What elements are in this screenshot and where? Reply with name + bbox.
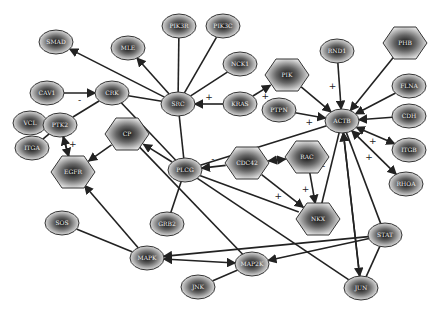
node-label: CAV1 bbox=[39, 89, 56, 96]
node-stat[interactable]: STAT bbox=[368, 223, 402, 247]
node-label: PTK2 bbox=[52, 121, 69, 128]
node-pik3r[interactable]: PIK3R bbox=[162, 14, 196, 38]
edge-cp-egfr bbox=[88, 145, 111, 161]
edge-sign-label: + bbox=[306, 117, 314, 127]
edge-sign-label: + bbox=[365, 152, 373, 162]
edge-cdh-actb bbox=[359, 117, 393, 120]
edge-ptk2-crk bbox=[73, 101, 100, 118]
edge-sign-label: - bbox=[78, 95, 81, 105]
node-plcg[interactable]: PLCG bbox=[168, 158, 202, 182]
edge-src-mle bbox=[137, 58, 169, 94]
node-map2k[interactable]: MAP2K bbox=[235, 252, 269, 276]
node-label: SRC bbox=[171, 100, 185, 107]
node-label: RAC bbox=[300, 153, 314, 160]
edge-rac-nkx bbox=[310, 173, 315, 204]
edge-src-plcg bbox=[179, 116, 184, 159]
node-itga[interactable]: ITGA bbox=[15, 136, 49, 160]
edge-pik-actb bbox=[301, 87, 331, 112]
node-label: CDC42 bbox=[236, 159, 258, 166]
node-label: SMAD bbox=[46, 38, 66, 45]
node-label: MLE bbox=[121, 44, 136, 51]
node-label: FLNA bbox=[400, 82, 418, 89]
node-grb2[interactable]: GRB2 bbox=[150, 212, 184, 236]
node-label: STAT bbox=[377, 231, 393, 238]
edge-mapk-map2k bbox=[164, 259, 236, 263]
node-label: SOS bbox=[55, 219, 68, 226]
edge-src-crk bbox=[128, 96, 162, 102]
node-actb[interactable]: ACTB bbox=[325, 109, 359, 133]
edge-itga-ptk2 bbox=[43, 134, 49, 139]
edge-stat-mapk bbox=[164, 237, 369, 257]
node-label: PIK3R bbox=[169, 22, 189, 29]
node-rhoa[interactable]: RHOA bbox=[389, 172, 423, 196]
edge-mapk-egfr bbox=[84, 185, 138, 248]
node-cav1[interactable]: CAV1 bbox=[30, 81, 64, 105]
node-label: EGFR bbox=[64, 168, 82, 175]
node-phb[interactable]: PHB bbox=[383, 27, 427, 59]
edge-sign-label: + bbox=[369, 136, 377, 146]
edge-jnk-map2k bbox=[212, 270, 237, 281]
node-mle[interactable]: MLE bbox=[111, 36, 145, 60]
node-label: ITGA bbox=[24, 144, 40, 151]
node-pik[interactable]: PIK bbox=[265, 59, 309, 91]
node-vcl[interactable]: VCL bbox=[13, 111, 47, 135]
edge-sign-label: + bbox=[261, 91, 269, 101]
node-label: NKX bbox=[311, 215, 326, 222]
node-ptpn[interactable]: PTPN bbox=[262, 98, 296, 122]
node-label: RND1 bbox=[328, 47, 346, 54]
node-label: VCL bbox=[23, 119, 37, 126]
node-label: GRB2 bbox=[158, 220, 176, 227]
edge-cdc42-rac bbox=[268, 159, 285, 161]
network-diagram: ++-+++++-++-- SMADMLEPIK3RPIK3CNCK1PIKRN… bbox=[0, 0, 441, 312]
edge-sign-label: + bbox=[205, 92, 213, 102]
node-src[interactable]: SRC bbox=[161, 92, 195, 116]
node-smad[interactable]: SMAD bbox=[39, 30, 73, 54]
node-ptk2[interactable]: PTK2 bbox=[43, 113, 77, 137]
edge-plcg-nkx bbox=[200, 175, 299, 211]
node-label: MAP2K bbox=[241, 260, 264, 267]
node-kras[interactable]: KRAS bbox=[223, 92, 257, 116]
node-pik3c[interactable]: PIK3C bbox=[206, 14, 240, 38]
node-label: PIK3C bbox=[213, 22, 233, 29]
node-label: PTPN bbox=[270, 106, 287, 113]
edge-cdc42-plcg bbox=[201, 165, 225, 168]
node-label: CP bbox=[123, 130, 132, 137]
edge-phb-actb bbox=[350, 57, 394, 111]
node-label: NCK1 bbox=[231, 60, 249, 67]
node-label: MAPK bbox=[138, 254, 158, 261]
node-label: CDH bbox=[402, 112, 417, 119]
edge-sign-label: + bbox=[274, 191, 282, 201]
node-rnd1[interactable]: RND1 bbox=[320, 39, 354, 63]
node-label: PIK bbox=[282, 71, 293, 78]
node-label: KRAS bbox=[231, 100, 248, 107]
edge-sign-label: + bbox=[302, 184, 310, 194]
node-label: PLCG bbox=[176, 166, 194, 173]
edge-sign-label: - bbox=[211, 154, 214, 164]
edge-src-pik3c bbox=[184, 37, 216, 93]
edge-src-pik3r bbox=[178, 38, 179, 92]
node-cdh[interactable]: CDH bbox=[392, 104, 426, 128]
node-crk[interactable]: CRK bbox=[95, 81, 129, 105]
edges-layer: ++-+++++-++-- bbox=[43, 37, 396, 281]
edge-rnd1-actb bbox=[338, 63, 341, 110]
node-label: JNK bbox=[191, 283, 205, 291]
node-label: RHOA bbox=[396, 180, 416, 187]
node-jun[interactable]: JUN bbox=[344, 276, 378, 300]
node-label: JUN bbox=[354, 284, 368, 292]
node-nck1[interactable]: NCK1 bbox=[223, 52, 257, 76]
edge-sign-label: + bbox=[69, 139, 77, 149]
edge-stat-jun bbox=[366, 246, 380, 277]
node-sos[interactable]: SOS bbox=[45, 211, 79, 235]
node-label: ITGB bbox=[401, 146, 417, 153]
node-mapk[interactable]: MAPK bbox=[130, 246, 164, 270]
network-svg: ++-+++++-++-- SMADMLEPIK3RPIK3CNCK1PIKRN… bbox=[0, 0, 441, 312]
node-itgb[interactable]: ITGB bbox=[392, 138, 426, 162]
node-label: ACTB bbox=[332, 117, 351, 124]
node-label: PHB bbox=[398, 39, 412, 46]
edge-ptk2-egfr bbox=[63, 137, 69, 157]
node-flna[interactable]: FLNA bbox=[392, 74, 426, 98]
edge-jun-actb bbox=[343, 133, 359, 277]
edge-sign-label: + bbox=[329, 81, 337, 91]
edge-cdc42-nkx bbox=[262, 175, 304, 208]
node-jnk[interactable]: JNK bbox=[181, 275, 215, 299]
